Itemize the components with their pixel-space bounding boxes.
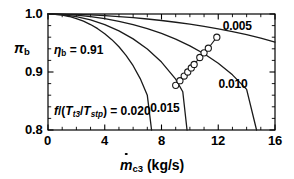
x-tick-label-4: 4	[101, 133, 108, 148]
y-tick-label-1.0: 1.0	[25, 6, 42, 21]
fuel-T-t3-subscript: t3	[73, 110, 80, 119]
y-tick-label-0.9: 0.9	[25, 64, 42, 79]
y-tick-label-0.8: 0.8	[25, 122, 42, 137]
annotation-efficiency: ηb = 0.91	[54, 43, 103, 58]
annotation-fuel-parameter: f/(Tt3/Tstp) = 0.020	[54, 104, 151, 119]
fuel-T-stp-symbol: T	[83, 104, 90, 118]
fuel-value: = 0.020	[107, 104, 151, 118]
y-axis-title-subscript: b	[24, 46, 30, 57]
x-axis-title-subscript: c3	[132, 163, 143, 174]
eta-value: = 0.91	[66, 43, 103, 57]
x-axis-title: mc3 (kg/s)	[120, 157, 184, 174]
curve-label-0.015: 0.015	[150, 101, 179, 115]
fuel-T-t3-symbol: T	[65, 104, 72, 118]
data-point-marker	[205, 45, 211, 51]
x-tick-label-12: 12	[211, 133, 225, 148]
figure-container: 1.0 0.9 0.8 0 4 8 12 16 πb mc3 (kg/s) ηb…	[0, 0, 294, 179]
data-point-marker	[214, 34, 220, 40]
overdot-icon	[125, 153, 128, 156]
y-axis-title: πb	[14, 40, 30, 57]
x-axis-title-symbol: m	[120, 157, 132, 173]
data-point-marker	[191, 61, 197, 67]
curve-label-0.010: 0.010	[218, 77, 247, 91]
x-tick-label-16: 16	[268, 133, 282, 148]
x-tick-label-0: 0	[44, 133, 51, 148]
x-axis-title-units: (kg/s)	[143, 157, 184, 173]
curve-label-0.005: 0.005	[223, 19, 252, 33]
fuel-T-stp-subscript: stp	[91, 110, 103, 119]
x-tick-label-8: 8	[158, 133, 165, 148]
y-axis-title-symbol: π	[14, 40, 24, 56]
